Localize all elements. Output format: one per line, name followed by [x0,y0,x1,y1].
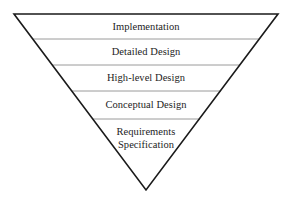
layer-label-requirements-specification: Requirements Specification [86,126,206,151]
layer-label-high-level-design: High-level Design [66,72,226,85]
layer-label-implementation: Implementation [46,21,246,34]
layer-label-conceptual-design: Conceptual Design [76,99,216,112]
layer-label-detailed-design: Detailed Design [51,46,241,59]
diagram-canvas: Implementation Detailed Design High-leve… [0,0,290,205]
